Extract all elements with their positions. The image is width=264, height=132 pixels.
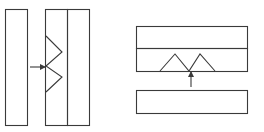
- strip-2: [137, 49, 248, 72]
- strip-3: [137, 91, 248, 114]
- left-figure: [6, 10, 90, 126]
- zigzag-interface: [46, 36, 62, 92]
- triangular-peaks: [160, 54, 215, 71]
- strip-1: [137, 27, 248, 49]
- diagram-canvas: [0, 0, 264, 132]
- diagram-svg: [0, 0, 264, 132]
- strip-1: [6, 10, 28, 126]
- strip-3: [68, 10, 90, 126]
- right-figure: [137, 27, 248, 114]
